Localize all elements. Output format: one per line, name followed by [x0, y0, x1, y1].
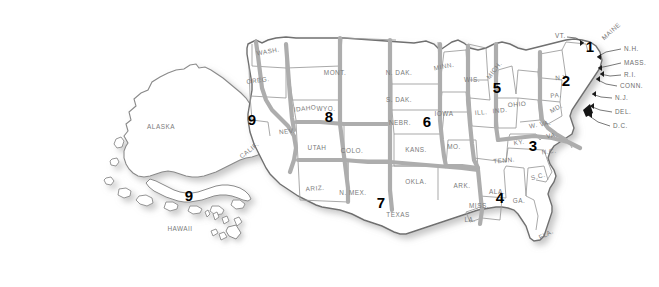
us-district-map: ALASKAHAWAIIWASH.OREG.CALIF.IDAHOMONT.WY… [0, 0, 659, 287]
alaska-shape [104, 64, 263, 215]
map-graphic [0, 0, 659, 287]
hawaii-shape [205, 210, 242, 240]
